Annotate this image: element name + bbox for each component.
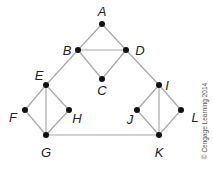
node-j <box>134 107 140 113</box>
graph-diagram: ABCDEFGHIJKL © Cengage Learning 2014 <box>0 0 213 169</box>
node-label-c: C <box>97 83 107 98</box>
node-label-j: J <box>126 112 134 127</box>
edge-a-d <box>102 24 126 50</box>
node-h <box>66 107 72 113</box>
node-label-i: I <box>165 78 169 93</box>
copyright-notice: © Cengage Learning 2014 <box>201 82 209 159</box>
edge-j-k <box>137 110 159 135</box>
node-k <box>156 132 162 138</box>
node-d <box>123 47 129 53</box>
node-label-d: D <box>135 43 144 58</box>
edge-f-g <box>25 110 46 135</box>
edge-h-g <box>46 110 69 135</box>
edge-c-d <box>102 50 126 79</box>
edge-i-l <box>159 85 181 110</box>
node-label-f: F <box>9 110 18 125</box>
graph-labels: ABCDEFGHIJKL <box>9 4 199 160</box>
node-b <box>75 47 81 53</box>
node-label-g: G <box>41 145 51 160</box>
node-a <box>99 21 105 27</box>
node-label-a: A <box>97 4 107 19</box>
node-g <box>43 132 49 138</box>
node-label-h: H <box>72 111 82 126</box>
edge-e-h <box>46 85 69 110</box>
edge-b-c <box>78 50 102 79</box>
node-label-l: L <box>191 110 198 125</box>
edge-a-b <box>78 24 102 50</box>
node-label-k: K <box>155 145 165 160</box>
edge-i-j <box>137 85 159 110</box>
edge-e-f <box>25 85 46 110</box>
node-label-b: B <box>63 43 72 58</box>
node-label-e: E <box>35 68 44 83</box>
node-i <box>156 82 162 88</box>
node-c <box>99 76 105 82</box>
node-f <box>22 107 28 113</box>
edge-l-k <box>159 110 181 135</box>
node-e <box>43 82 49 88</box>
node-l <box>178 107 184 113</box>
